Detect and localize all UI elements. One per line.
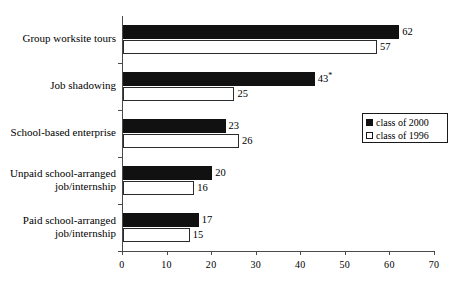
bar-value-label: 16 [197,182,208,193]
category-label-line: Unpaid school-arranged [0,167,116,180]
bar-class-of-1996 [123,87,234,101]
bar-class-of-1996 [123,40,377,54]
x-axis-tick [122,251,123,255]
bar-value-label: 17 [202,214,213,225]
category-label-line: Job shadowing [0,79,116,92]
bar-value-label: 15 [193,229,204,240]
y-axis-tick [118,204,123,205]
bar-value-label: 57 [380,41,391,52]
bar-class-of-1996 [123,228,190,242]
legend-label-class-of-1996: class of 1996 [376,129,429,142]
bar-class-of-1996 [123,134,239,148]
bar-value-label: 62 [402,26,413,37]
category-label-line: job/internship [0,180,116,193]
bar-class-of-2000 [123,166,212,180]
x-axis-tick [211,251,212,255]
category-label-line: Paid school-arranged [0,214,116,227]
bar-class-of-2000 [123,213,199,227]
footnote-asterisk: * [328,71,332,80]
category-label: School-based enterprise [0,126,116,139]
bar-value-label: 23 [229,120,240,131]
category-label: Paid school-arrangedjob/internship [0,214,116,239]
x-axis-tick [345,251,346,255]
y-axis-tick [118,157,123,158]
category-label-line: job/internship [0,227,116,240]
x-axis-tick-label: 20 [196,259,226,270]
x-axis-tick [300,251,301,255]
bar-class-of-2000 [123,25,399,39]
bar-chart: 010203040506070 Group worksite toursJob … [0,0,459,283]
legend-swatch-filled-square [366,119,373,126]
category-label: Job shadowing [0,79,116,92]
x-axis-tick-label: 0 [107,259,137,270]
x-axis-tick [389,251,390,255]
category-label-line: School-based enterprise [0,126,116,139]
x-axis-tick-label: 60 [374,259,404,270]
bar-value-label: 43* [318,73,333,84]
legend-swatch-open-square [366,132,373,139]
x-axis-tick-label: 50 [330,259,360,270]
x-axis-line [122,251,435,252]
bar-class-of-1996 [123,181,194,195]
bar-class-of-2000 [123,119,226,133]
bar-class-of-2000 [123,72,315,86]
bar-value-label: 20 [215,167,226,178]
category-label: Unpaid school-arrangedjob/internship [0,167,116,192]
legend-label-class-of-2000: class of 2000 [376,116,429,129]
x-axis-tick-label: 30 [241,259,271,270]
x-axis-tick [167,251,168,255]
y-axis-tick [118,110,123,111]
legend-item-class-of-1996: class of 1996 [366,129,444,142]
legend-item-class-of-2000: class of 2000 [366,116,444,129]
chart-legend: class of 2000 class of 1996 [362,113,448,143]
category-label: Group worksite tours [0,32,116,45]
x-axis-tick-label: 10 [152,259,182,270]
x-axis-tick-label: 70 [419,259,449,270]
bar-value-label: 25 [237,88,248,99]
x-axis-tick-label: 40 [285,259,315,270]
bar-value-label: 26 [242,135,253,146]
y-axis-tick [118,63,123,64]
category-label-line: Group worksite tours [0,32,116,45]
x-axis-tick [434,251,435,255]
x-axis-tick [256,251,257,255]
